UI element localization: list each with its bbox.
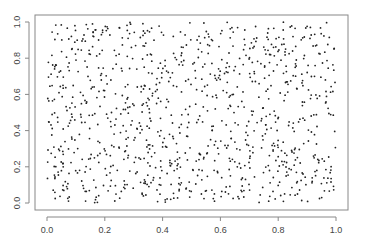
x-tick-label: 0.4 xyxy=(156,225,169,235)
x-tick-label: 0.8 xyxy=(272,225,285,235)
x-tick-label: 0.6 xyxy=(214,225,227,235)
y-tick-label: 0.0 xyxy=(12,197,22,210)
y-tick-label: 1.0 xyxy=(12,16,22,29)
y-tick-label: 0.4 xyxy=(12,124,22,137)
scatter-plot: 0.00.20.40.60.81.0 0.00.20.40.60.81.0 xyxy=(0,0,365,247)
y-axis: 0.00.20.40.60.81.0 xyxy=(12,16,29,210)
x-tick-label: 0.0 xyxy=(41,225,54,235)
y-tick-label: 0.8 xyxy=(12,52,22,65)
x-axis: 0.00.20.40.60.81.0 xyxy=(41,217,343,235)
x-tick-label: 0.2 xyxy=(99,225,112,235)
data-points xyxy=(47,21,337,203)
x-tick-label: 1.0 xyxy=(330,225,343,235)
y-tick-label: 0.6 xyxy=(12,88,22,101)
y-tick-label: 0.2 xyxy=(12,161,22,174)
